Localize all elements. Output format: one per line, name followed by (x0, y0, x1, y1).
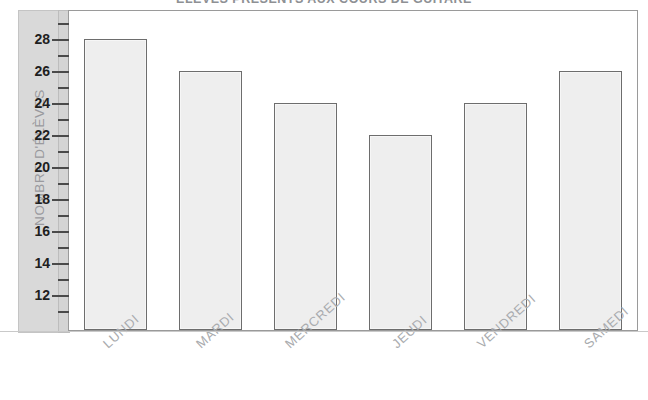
y-tick-minor (58, 23, 69, 25)
y-tick-minor (58, 279, 69, 281)
bar-chart: ÉLÈVES PRÉSENTS AUX COURS DE GUITARE NOM… (0, 0, 648, 400)
y-tick-major (52, 103, 69, 105)
y-tick-major (52, 71, 69, 73)
y-tick-minor (58, 311, 69, 313)
y-tick-minor (58, 87, 69, 89)
y-tick-label: 22 (18, 128, 50, 142)
y-tick-label: 20 (18, 160, 50, 174)
y-tick-major (52, 135, 69, 137)
y-tick-major (52, 39, 69, 41)
y-tick-minor (58, 119, 69, 121)
y-tick-minor (58, 55, 69, 57)
y-tick-major (52, 231, 69, 233)
bar (369, 135, 432, 330)
y-tick-minor (58, 247, 69, 249)
y-tick-major (52, 263, 69, 265)
y-tick-major (52, 167, 69, 169)
y-tick-label: 24 (18, 96, 50, 110)
y-tick-major (52, 199, 69, 201)
y-tick-label: 14 (18, 256, 50, 270)
y-tick-minor (58, 183, 69, 185)
y-tick-label: 26 (18, 64, 50, 78)
y-tick-label: 12 (18, 288, 50, 302)
y-tick-label: 28 (18, 32, 50, 46)
y-tick-minor (58, 151, 69, 153)
baseline-rule (0, 331, 648, 332)
y-tick-major (52, 295, 69, 297)
plot-area (68, 10, 638, 331)
y-tick-minor (58, 215, 69, 217)
bar (464, 103, 527, 330)
bar (559, 71, 622, 330)
y-tick-label: 16 (18, 224, 50, 238)
bar (179, 71, 242, 330)
bar (274, 103, 337, 330)
y-tick-label: 18 (18, 192, 50, 206)
chart-title: ÉLÈVES PRÉSENTS AUX COURS DE GUITARE (0, 0, 648, 7)
bar (84, 39, 147, 330)
